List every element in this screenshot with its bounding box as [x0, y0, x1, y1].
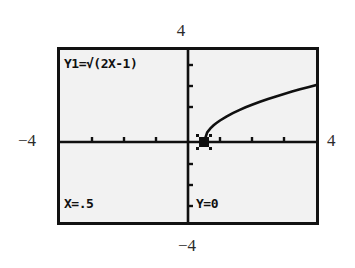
- window-label-ymax: 4: [177, 22, 186, 39]
- function-curve: [204, 85, 316, 142]
- calculator-display-frame: Y1=√(2X-1) X=.5 Y=0: [57, 47, 319, 225]
- window-label-xmax: 4: [327, 132, 336, 149]
- function-expression-label: Y1=√(2X-1): [64, 57, 137, 70]
- window-label-xmin: −4: [18, 132, 36, 149]
- calculator-screenshot: 4 −4 4 −4: [0, 0, 355, 268]
- trace-x-readout: X=.5: [64, 197, 93, 210]
- trace-y-readout: Y=0: [196, 197, 218, 210]
- window-label-ymin: −4: [178, 237, 196, 254]
- calculator-screen: Y1=√(2X-1) X=.5 Y=0: [60, 50, 316, 222]
- graph-plot: [60, 50, 316, 222]
